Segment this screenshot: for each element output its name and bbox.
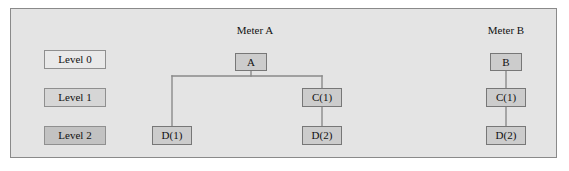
node-a: A	[235, 53, 267, 71]
caption-meter-b: Meter B	[479, 25, 533, 36]
legend-box-level-0: Level 0	[44, 50, 106, 69]
node-a-d1: D(1)	[152, 126, 192, 145]
node-b: B	[490, 53, 522, 71]
node-a-d2: D(2)	[302, 126, 342, 145]
node-b-c1: C(1)	[486, 88, 526, 107]
legend-box-level-1: Level 1	[44, 88, 106, 107]
legend-box-level-2: Level 2	[44, 126, 106, 145]
diagram-screenshot: Level 0Level 1Level 2 Meter AMeter B AC(…	[0, 0, 569, 171]
caption-meter-a: Meter A	[228, 25, 282, 36]
node-a-c1: C(1)	[302, 88, 342, 107]
node-b-d2: D(2)	[486, 126, 526, 145]
